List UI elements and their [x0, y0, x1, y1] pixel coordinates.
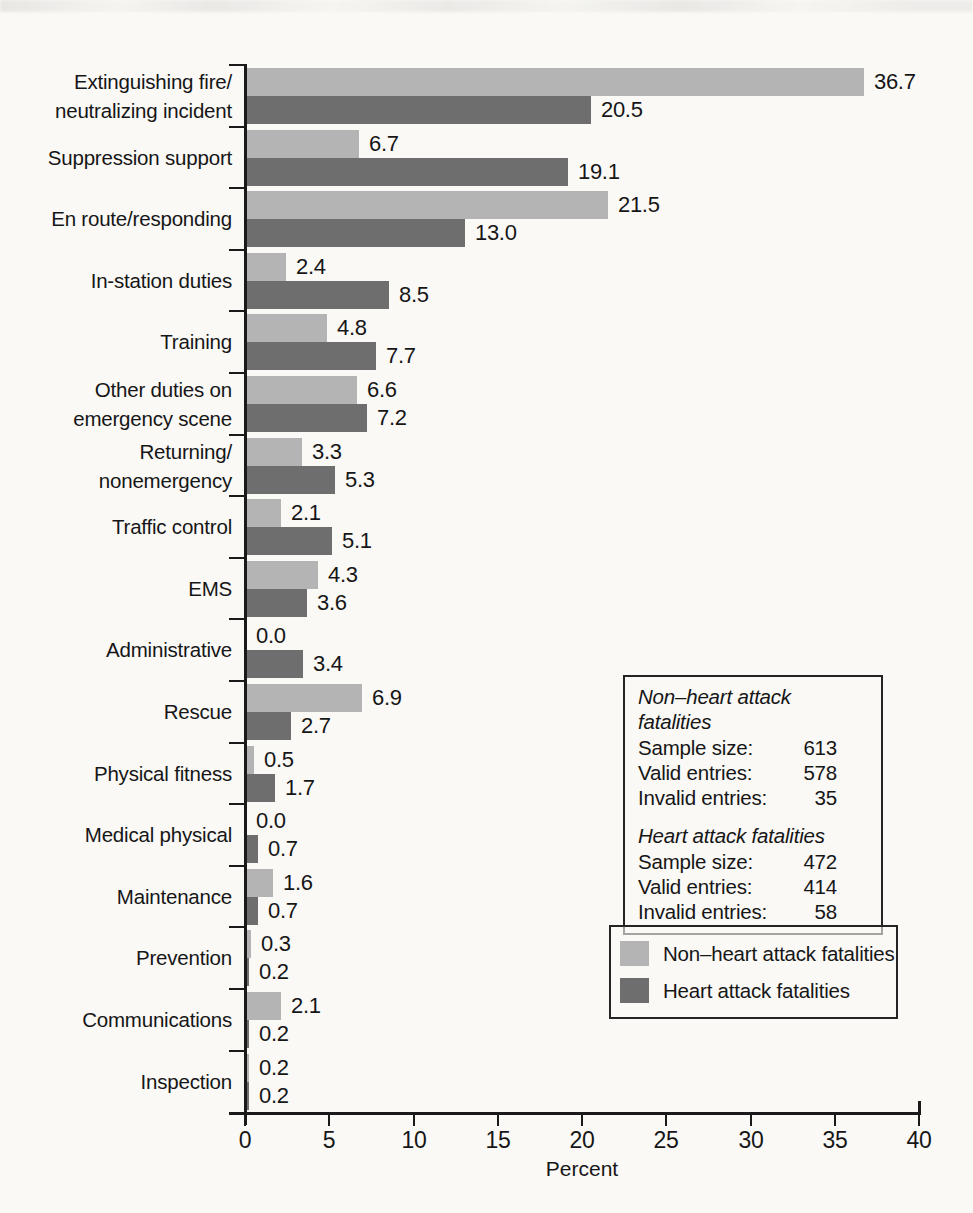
- bar-heart: [246, 158, 568, 186]
- category-label-line: neutralizing incident: [55, 96, 232, 125]
- stats-label: Sample size:: [638, 849, 803, 874]
- bar-chart: Extinguishing fire/neutralizing incident…: [0, 0, 973, 1213]
- value-label: 0.3: [261, 930, 291, 958]
- bar-heart: [246, 342, 376, 370]
- stats-group-divider: [638, 810, 869, 823]
- bar-nonheart: [246, 68, 864, 96]
- category-label: Administrative: [0, 619, 232, 681]
- category-label-line: Maintenance: [117, 882, 232, 911]
- legend-swatch-heart: [620, 978, 649, 1003]
- stats-title: Non–heart attack fatalities: [638, 684, 869, 734]
- category-label-line: Physical fitness: [94, 759, 232, 788]
- stats-title: Heart attack fatalities: [638, 823, 869, 848]
- value-label: 13.0: [475, 219, 517, 247]
- category-label-line: Inspection: [141, 1067, 232, 1096]
- category-label-line: emergency scene: [73, 404, 232, 433]
- x-axis-tick-label: 15: [468, 1127, 528, 1154]
- category-label-line: Returning/: [139, 437, 232, 466]
- bar-nonheart: [246, 869, 273, 897]
- bar-nonheart: [246, 746, 254, 774]
- category-label-line: Prevention: [136, 943, 232, 972]
- category-label: Prevention: [0, 927, 232, 989]
- category-label: Returning/nonemergency: [0, 435, 232, 497]
- value-label: 3.3: [312, 438, 342, 466]
- value-label: 0.0: [256, 622, 286, 650]
- stats-label: Invalid entries:: [638, 785, 815, 810]
- bar-heart: [246, 404, 367, 432]
- stats-row: Valid entries: 414: [638, 874, 869, 899]
- category-label: En route/responding: [0, 188, 232, 250]
- category-label: Medical physical: [0, 804, 232, 866]
- stats-value: 613: [803, 735, 869, 760]
- stats-row: Invalid entries: 58: [638, 899, 869, 924]
- x-axis-tick-label: 20: [552, 1127, 612, 1154]
- x-axis-tick: [413, 1115, 415, 1126]
- value-label: 21.5: [618, 191, 660, 219]
- category-label: Extinguishing fire/neutralizing incident: [0, 65, 232, 127]
- category-label: Inspection: [0, 1051, 232, 1113]
- bar-nonheart: [246, 376, 357, 404]
- x-axis-tick: [665, 1115, 667, 1126]
- bar-heart: [246, 527, 332, 555]
- x-axis-tick-label: 10: [384, 1127, 444, 1154]
- category-label-line: In-station duties: [91, 266, 232, 295]
- x-axis-tick: [750, 1115, 752, 1126]
- bar-heart: [246, 712, 291, 740]
- x-axis-tick-label: 35: [805, 1127, 865, 1154]
- bar-heart: [246, 466, 335, 494]
- stats-row: Sample size: 613: [638, 735, 869, 760]
- legend-label: Heart attack fatalities: [663, 979, 850, 1003]
- value-label: 2.7: [301, 712, 331, 740]
- bar-heart: [246, 219, 465, 247]
- legend-item-heart: Heart attack fatalities: [620, 972, 886, 1009]
- value-label: 20.5: [601, 96, 643, 124]
- bar-heart: [246, 96, 591, 124]
- x-axis-tick: [918, 1115, 920, 1126]
- value-label: 0.2: [259, 1054, 289, 1082]
- category-label: Other duties onemergency scene: [0, 373, 232, 435]
- category-label: Training: [0, 311, 232, 373]
- category-label-line: EMS: [188, 574, 232, 603]
- bar-nonheart: [246, 314, 327, 342]
- x-axis-tick-label: 40: [889, 1127, 949, 1154]
- stats-value: 472: [803, 849, 869, 874]
- stats-label: Sample size:: [638, 735, 803, 760]
- stats-row: Valid entries: 578: [638, 760, 869, 785]
- category-label: Traffic control: [0, 496, 232, 558]
- category-label: Suppression support: [0, 127, 232, 189]
- x-axis-tick-label: 25: [636, 1127, 696, 1154]
- category-label: Physical fitness: [0, 743, 232, 805]
- value-label: 2.1: [291, 992, 321, 1020]
- value-label: 0.2: [259, 1082, 289, 1110]
- value-label: 6.6: [367, 376, 397, 404]
- value-label: 6.7: [369, 130, 399, 158]
- value-label: 0.0: [256, 807, 286, 835]
- value-label: 1.6: [283, 869, 313, 897]
- value-label: 0.2: [259, 1020, 289, 1048]
- category-label: In-station duties: [0, 250, 232, 312]
- legend-label: Non–heart attack fatalities: [663, 942, 895, 966]
- stats-value: 58: [815, 899, 869, 924]
- value-label: 5.3: [345, 466, 375, 494]
- bar-heart: [246, 897, 258, 925]
- value-label: 5.1: [342, 527, 372, 555]
- bar-heart: [246, 650, 303, 678]
- category-label-line: Training: [160, 327, 232, 356]
- stats-label: Valid entries:: [638, 760, 803, 785]
- x-axis-tick: [244, 1115, 246, 1126]
- value-label: 0.5: [264, 746, 294, 774]
- value-label: 2.4: [296, 253, 326, 281]
- bar-nonheart: [246, 684, 362, 712]
- category-label-line: Extinguishing fire/: [74, 67, 232, 96]
- legend-swatch-nonheart: [620, 941, 649, 966]
- x-axis-tick-label: 30: [721, 1127, 781, 1154]
- bar-heart: [246, 774, 275, 802]
- legend-item-nonheart: Non–heart attack fatalities: [620, 935, 886, 972]
- bar-nonheart: [246, 992, 281, 1020]
- category-label-line: Rescue: [164, 697, 232, 726]
- bar-heart: [246, 589, 307, 617]
- value-label: 4.8: [337, 314, 367, 342]
- stats-row: Sample size: 472: [638, 849, 869, 874]
- value-label: 8.5: [399, 281, 429, 309]
- stats-label: Invalid entries:: [638, 899, 815, 924]
